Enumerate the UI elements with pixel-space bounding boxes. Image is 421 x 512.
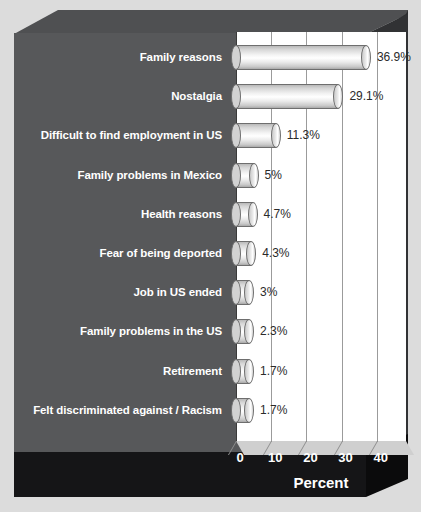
bar-left-cap <box>231 398 241 423</box>
frame-top-face <box>14 10 408 34</box>
bar-value-label: 29.1% <box>349 89 383 103</box>
bar-left-cap <box>231 319 241 344</box>
bar-row: Family problems in the US2.3% <box>14 314 408 352</box>
bar-end-cap <box>244 359 254 384</box>
bar-value-label: 1.7% <box>260 403 287 417</box>
bar-value-label: 36.9% <box>377 50 411 64</box>
bar-end-cap <box>333 84 343 109</box>
bar-left-cap <box>231 280 241 305</box>
bar-end-cap <box>248 202 258 227</box>
bar[interactable] <box>236 359 249 384</box>
bar-left-cap <box>231 84 241 109</box>
bar-row: Felt discriminated against / Racism1.7% <box>14 393 408 431</box>
category-label: Difficult to find employment in US <box>14 128 222 142</box>
bar-value-label: 5% <box>265 168 282 182</box>
bar-row: Family reasons36.9% <box>14 40 408 78</box>
bar-row: Retirement1.7% <box>14 354 408 392</box>
category-label: Retirement <box>14 364 222 378</box>
bar-end-cap <box>244 319 254 344</box>
bar-end-cap <box>271 123 281 148</box>
bar[interactable] <box>236 84 338 109</box>
bar[interactable] <box>236 123 276 148</box>
bar-end-cap <box>249 163 259 188</box>
bar-value-label: 1.7% <box>260 364 287 378</box>
bar-left-cap <box>231 359 241 384</box>
category-label: Health reasons <box>14 207 222 221</box>
bar[interactable] <box>236 280 249 305</box>
x-axis-title: Percent <box>236 474 406 491</box>
bar[interactable] <box>236 241 251 266</box>
bar-row: Fear of being deported4.3% <box>14 236 408 274</box>
bar-left-cap <box>231 123 241 148</box>
bar-row: Nostalgia29.1% <box>14 79 408 117</box>
category-label: Job in US ended <box>14 285 222 299</box>
bar-row: Difficult to find employment in US11.3% <box>14 118 408 156</box>
bar[interactable] <box>236 202 253 227</box>
category-label: Family problems in the US <box>14 324 222 338</box>
bar-value-label: 3% <box>260 285 277 299</box>
bar-value-label: 11.3% <box>287 128 320 142</box>
bar-left-cap <box>231 45 241 70</box>
bar-row: Family problems in Mexico5% <box>14 158 408 196</box>
bar-end-cap <box>244 398 254 423</box>
category-label: Nostalgia <box>14 89 222 103</box>
bar-left-cap <box>231 241 241 266</box>
bar-value-label: 4.7% <box>264 207 291 221</box>
chart-page: Family reasons36.9%Nostalgia29.1%Difficu… <box>0 0 421 512</box>
bar-left-cap <box>231 163 241 188</box>
bar-value-label: 2.3% <box>260 324 287 338</box>
bar[interactable] <box>236 45 366 70</box>
category-label: Felt discriminated against / Racism <box>14 403 222 417</box>
bar-value-label: 4.3% <box>262 246 289 260</box>
bar-end-cap <box>246 241 256 266</box>
category-label: Fear of being deported <box>14 246 222 260</box>
bar[interactable] <box>236 319 249 344</box>
bar-left-cap <box>231 202 241 227</box>
chart-3d-frame: Family reasons36.9%Nostalgia29.1%Difficu… <box>14 10 408 497</box>
bar-end-cap <box>244 280 254 305</box>
bar-end-cap <box>361 45 371 70</box>
category-label: Family reasons <box>14 50 222 64</box>
bar[interactable] <box>236 163 254 188</box>
bar-row: Job in US ended3% <box>14 275 408 313</box>
category-label: Family problems in Mexico <box>14 168 222 182</box>
bar-row: Health reasons4.7% <box>14 197 408 235</box>
bar[interactable] <box>236 398 249 423</box>
